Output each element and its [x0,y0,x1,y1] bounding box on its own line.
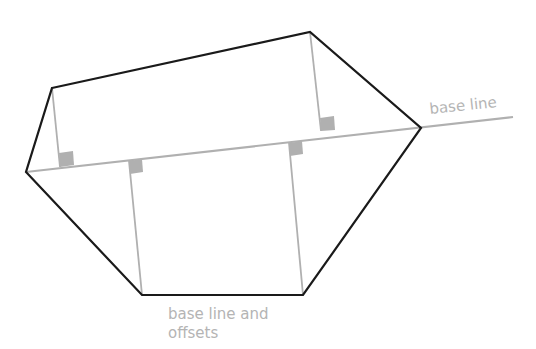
offsets-label-line2: offsets [168,324,218,342]
offset-line-3 [129,161,142,295]
right-angle-marker-3 [129,159,143,174]
right-angle-marker-1 [59,151,74,167]
offset-line-2 [310,32,321,131]
base-line-label: base line [429,93,498,118]
offsets-label-line1: base line and [168,305,269,323]
field-boundary-polygon [26,32,421,295]
survey-diagram: base line base line and offsets [0,0,536,349]
right-angle-marker-2 [320,116,335,131]
offset-line-1 [52,88,60,167]
offset-line-4 [289,143,303,295]
right-angle-marker-4 [289,141,303,156]
base-line [26,117,513,172]
